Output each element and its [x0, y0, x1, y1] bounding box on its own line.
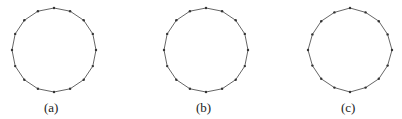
vertex-dot — [333, 86, 335, 88]
vertex-dot — [175, 79, 177, 81]
vertex-dot — [221, 10, 223, 12]
vertex-dot — [391, 49, 393, 51]
vertex-dot — [69, 10, 71, 12]
vertex-dot — [14, 65, 16, 67]
caption-a: (a) — [44, 100, 58, 115]
vertex-dot — [14, 33, 16, 35]
vertex-dot — [69, 88, 71, 90]
vertex-dot — [364, 11, 366, 13]
vertex-dot — [378, 20, 380, 22]
vertex-dot — [37, 88, 39, 90]
vertex-dot — [364, 86, 366, 88]
vertex-dot — [166, 33, 168, 35]
vertex-dot — [235, 19, 237, 21]
vertex-dot — [386, 64, 388, 66]
vertex-dot — [92, 65, 94, 67]
vertex-dot — [189, 10, 191, 12]
vertex-dot — [175, 19, 177, 21]
vertex-dot — [83, 19, 85, 21]
vertex-dot — [307, 49, 309, 51]
vertex-dot — [11, 49, 13, 51]
vertex-dot — [189, 88, 191, 90]
panel-b-polygon — [163, 7, 249, 93]
vertex-dot — [166, 65, 168, 67]
vertex-dot — [311, 33, 313, 35]
vertex-dot — [221, 88, 223, 90]
vertex-dot — [247, 49, 249, 51]
vertex-dot — [386, 33, 388, 35]
panel-a-polygon — [11, 7, 97, 93]
caption-b: (b) — [196, 100, 211, 115]
caption-c: (c) — [341, 100, 355, 115]
panel-c-polygon — [307, 7, 393, 93]
vertex-dot — [320, 78, 322, 80]
vertex-dot — [244, 33, 246, 35]
vertex-dot — [23, 79, 25, 81]
vertex-dot — [320, 20, 322, 22]
vertex-dot — [349, 7, 351, 9]
vertex-dot — [378, 78, 380, 80]
vertex-dot — [163, 49, 165, 51]
vertex-dot — [205, 91, 207, 93]
vertex-dot — [53, 7, 55, 9]
vertex-dot — [83, 79, 85, 81]
vertex-dot — [244, 65, 246, 67]
vertex-dot — [95, 49, 97, 51]
vertex-dot — [235, 79, 237, 81]
vertex-dot — [92, 33, 94, 35]
vertex-dot — [333, 11, 335, 13]
vertex-dot — [23, 19, 25, 21]
figure-canvas: (a) (b) (c) — [0, 0, 402, 119]
vertex-dot — [349, 91, 351, 93]
vertex-dot — [37, 10, 39, 12]
vertex-dot — [53, 91, 55, 93]
vertex-dot — [205, 7, 207, 9]
vertex-dot — [311, 64, 313, 66]
